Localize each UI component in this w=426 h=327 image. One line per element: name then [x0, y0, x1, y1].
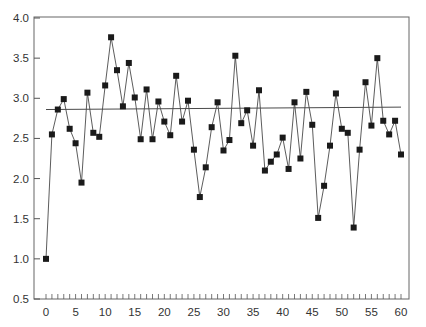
data-point-marker [333, 90, 339, 96]
y-tick-label: 4.0 [13, 12, 29, 24]
data-point-marker [120, 103, 126, 109]
x-tick-label: 45 [306, 306, 319, 318]
data-point-marker [167, 132, 173, 138]
data-series [43, 34, 404, 262]
data-point-marker [173, 73, 179, 79]
data-point-marker [84, 90, 90, 96]
data-point-marker [297, 156, 303, 162]
line-chart: 0.51.01.52.02.53.03.54.0 051015202530354… [0, 0, 426, 327]
data-point-marker [102, 82, 108, 88]
data-point-marker [155, 98, 161, 104]
data-point-marker [345, 130, 351, 136]
data-point-marker [215, 99, 221, 105]
data-point-marker [108, 34, 114, 40]
data-point-marker [61, 96, 67, 102]
x-tick-label: 5 [72, 306, 78, 318]
data-point-marker [185, 98, 191, 104]
data-point-marker [327, 143, 333, 149]
x-tick-label: 20 [158, 306, 171, 318]
data-point-marker [339, 126, 345, 132]
data-point-marker [114, 67, 120, 73]
y-axis: 0.51.01.52.02.53.03.54.0 [13, 12, 40, 305]
x-axis: 051015202530354045505560 [43, 294, 408, 318]
data-point-marker [280, 135, 286, 141]
data-point-marker [191, 147, 197, 153]
trend-line [46, 107, 401, 109]
data-point-marker [209, 124, 215, 130]
y-tick-label: 2.0 [13, 173, 29, 185]
x-tick-label: 55 [365, 306, 378, 318]
data-point-marker [73, 140, 79, 146]
data-point-marker [380, 118, 386, 124]
x-tick-label: 0 [43, 306, 49, 318]
data-point-marker [226, 137, 232, 143]
data-point-marker [374, 55, 380, 61]
data-point-marker [55, 107, 61, 113]
data-point-marker [43, 256, 49, 262]
data-point-marker [138, 136, 144, 142]
y-tick-label: 0.5 [13, 293, 29, 305]
y-tick-label: 3.5 [13, 52, 29, 64]
x-tick-label: 35 [247, 306, 260, 318]
data-point-marker [179, 119, 185, 125]
x-tick-label: 15 [128, 306, 141, 318]
data-point-marker [161, 119, 167, 125]
x-tick-label: 25 [188, 306, 201, 318]
y-tick-label: 1.0 [13, 253, 29, 265]
data-point-marker [274, 151, 280, 157]
data-point-marker [244, 107, 250, 113]
x-tick-label: 50 [335, 306, 348, 318]
plot-frame [34, 17, 409, 299]
data-point-marker [303, 89, 309, 95]
y-tick-label: 3.0 [13, 92, 29, 104]
y-tick-label: 2.5 [13, 132, 29, 144]
data-point-marker [67, 126, 73, 132]
x-tick-label: 40 [276, 306, 289, 318]
data-point-marker [363, 79, 369, 85]
data-point-marker [238, 120, 244, 126]
x-tick-label: 60 [395, 306, 408, 318]
y-tick-label: 1.5 [13, 213, 29, 225]
data-point-marker [368, 123, 374, 129]
data-point-marker [79, 180, 85, 186]
data-point-marker [286, 166, 292, 172]
data-point-marker [49, 131, 55, 137]
data-point-marker [315, 215, 321, 221]
data-point-marker [96, 134, 102, 140]
data-point-marker [203, 164, 209, 170]
x-tick-label: 30 [217, 306, 230, 318]
data-point-marker [232, 53, 238, 59]
data-point-marker [357, 147, 363, 153]
data-point-marker [309, 122, 315, 128]
data-point-marker [321, 183, 327, 189]
data-point-marker [262, 168, 268, 174]
data-point-marker [90, 130, 96, 136]
data-point-marker [398, 151, 404, 157]
data-point-marker [256, 87, 262, 93]
data-point-marker [250, 143, 256, 149]
data-point-marker [392, 118, 398, 124]
data-point-marker [268, 159, 274, 165]
data-point-marker [221, 147, 227, 153]
data-point-marker [386, 131, 392, 137]
data-point-marker [150, 136, 156, 142]
data-point-marker [126, 60, 132, 66]
x-tick-label: 10 [99, 306, 112, 318]
data-point-marker [132, 94, 138, 100]
data-point-marker [197, 194, 203, 200]
data-point-marker [351, 225, 357, 231]
data-point-marker [144, 86, 150, 92]
data-point-marker [292, 99, 298, 105]
